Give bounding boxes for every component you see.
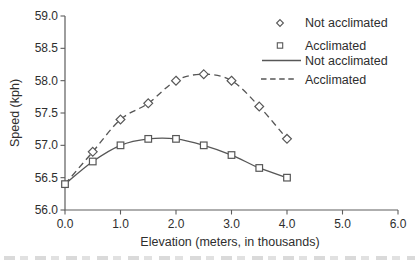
square-marker (145, 136, 152, 143)
y-axis-label: Speed (kph) (8, 79, 22, 147)
legend-label-not-acclimated-line: Not acclimated (305, 54, 388, 68)
legend: Not acclimated Acclimated Not acclimated… (261, 16, 388, 87)
y-tick-label: 56.5 (35, 171, 59, 185)
chart-figure: 56.056.557.057.558.058.559.00.01.02.03.0… (0, 0, 419, 260)
series-line-solid (65, 138, 287, 184)
legend-label-not-acclimated-marker: Not acclimated (305, 16, 388, 30)
square-marker (256, 165, 263, 172)
legend-diamond-icon (277, 20, 284, 27)
y-tick-label: 56.0 (35, 203, 59, 217)
y-tick-label: 58.0 (35, 74, 59, 88)
x-tick-label: 2.0 (168, 217, 185, 231)
cutoff-caption-artifact (4, 256, 415, 260)
x-tick-label: 4.0 (279, 217, 296, 231)
diamond-marker (255, 102, 264, 111)
square-marker (62, 181, 69, 188)
y-tick-label: 57.0 (35, 138, 59, 152)
y-tick-label: 58.5 (35, 41, 59, 55)
diamond-marker (172, 76, 181, 85)
diamond-marker (227, 76, 236, 85)
x-tick-label: 3.0 (223, 217, 240, 231)
diamond-marker (199, 70, 208, 79)
series-line-dashed (65, 74, 287, 184)
x-tick-label: 6.0 (390, 217, 407, 231)
square-marker (200, 142, 207, 149)
x-tick-label: 0.0 (57, 217, 74, 231)
legend-label-acclimated-line: Acclimated (305, 73, 366, 87)
y-tick-label: 59.0 (35, 9, 59, 23)
square-marker (173, 136, 180, 143)
square-marker (284, 174, 291, 181)
speed-vs-elevation-chart: 56.056.557.057.558.058.559.00.01.02.03.0… (0, 0, 419, 260)
x-tick-label: 5.0 (334, 217, 351, 231)
square-marker (117, 142, 124, 149)
legend-square-icon (277, 43, 282, 48)
square-marker (228, 152, 235, 159)
diamond-marker (283, 134, 292, 143)
square-marker (89, 158, 96, 165)
y-tick-label: 57.5 (35, 106, 59, 120)
x-axis-label: Elevation (meters, in thousands) (140, 235, 319, 249)
legend-label-acclimated-marker: Acclimated (305, 39, 366, 53)
x-tick-label: 1.0 (112, 217, 129, 231)
